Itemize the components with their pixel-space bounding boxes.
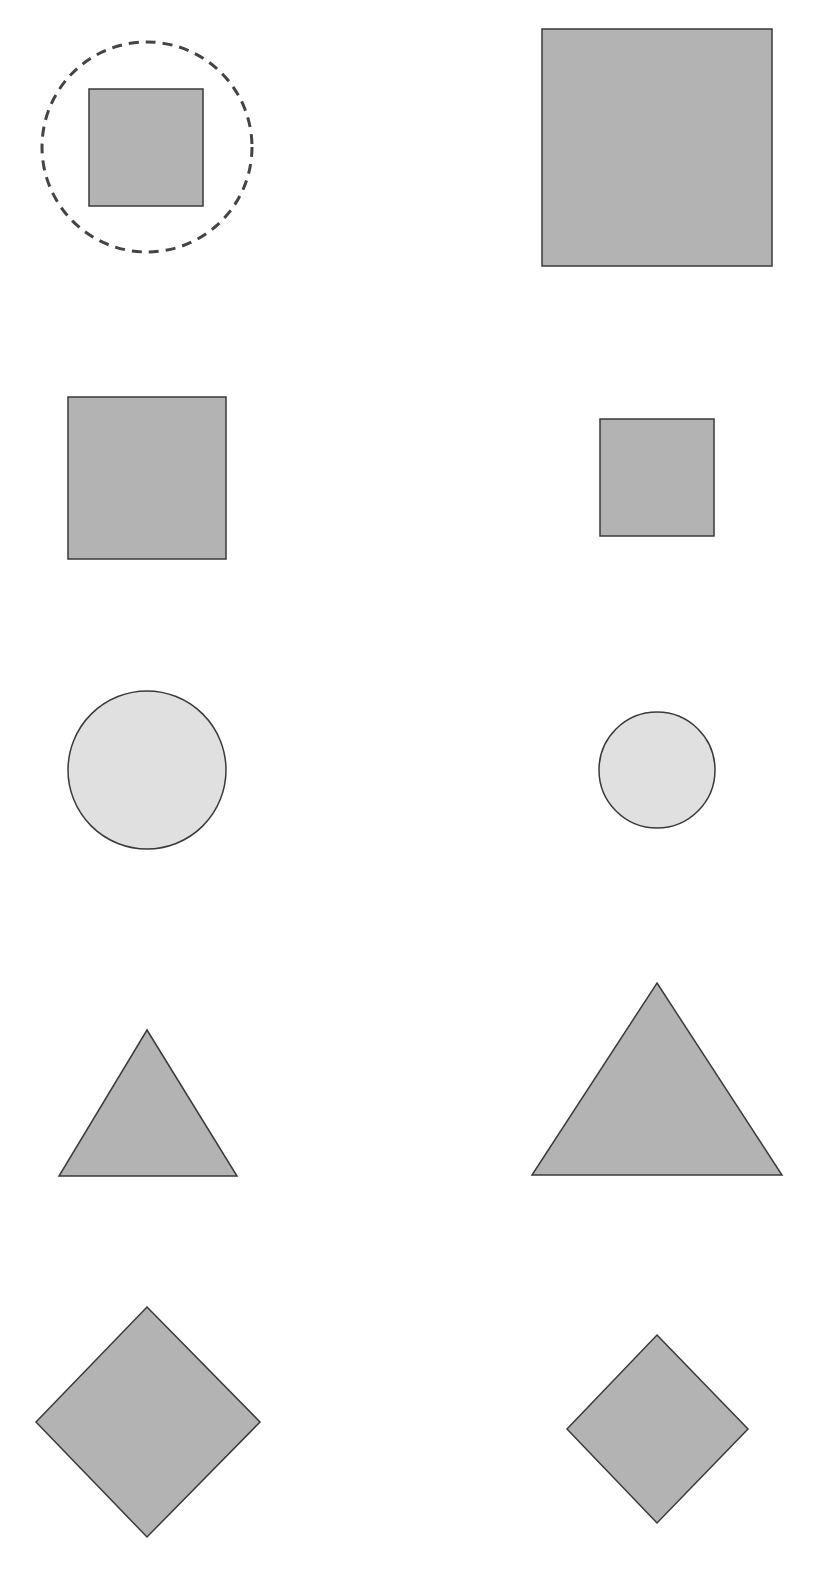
square-left-2 [68, 397, 226, 559]
square-right-2 [600, 419, 714, 536]
diamond-left-5 [36, 1307, 260, 1537]
square-left-1 [89, 89, 203, 206]
triangle-left-4 [59, 1030, 237, 1176]
diamond-right-5 [567, 1335, 748, 1523]
shape-canvas [0, 0, 819, 1585]
triangle-right-4 [532, 983, 782, 1175]
circle-right-3 [599, 712, 715, 828]
circle-left-3 [68, 691, 226, 849]
square-right-1 [542, 29, 772, 266]
